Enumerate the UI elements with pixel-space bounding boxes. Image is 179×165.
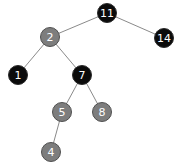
- node-label: 8: [99, 106, 106, 119]
- node-label: 4: [48, 146, 55, 159]
- tree-node-8: 8: [93, 103, 112, 122]
- node-label: 5: [59, 106, 66, 119]
- nodes: 11 2 14 1 7 5 8 4: [9, 4, 174, 162]
- edges: [18, 13, 164, 152]
- node-label: 2: [47, 31, 54, 44]
- node-label: 14: [157, 32, 171, 45]
- tree-node-1: 1: [9, 66, 28, 85]
- node-label: 7: [79, 69, 86, 82]
- tree-node-14: 14: [155, 29, 174, 48]
- tree-node-2: 2: [41, 28, 60, 47]
- tree-node-11: 11: [98, 4, 117, 23]
- tree-node-5: 5: [53, 103, 72, 122]
- tree-node-4: 4: [42, 143, 61, 162]
- tree-diagram: 11 2 14 1 7 5 8 4: [0, 0, 179, 165]
- node-label: 1: [15, 69, 22, 82]
- node-label: 11: [100, 7, 114, 20]
- tree-node-7: 7: [73, 66, 92, 85]
